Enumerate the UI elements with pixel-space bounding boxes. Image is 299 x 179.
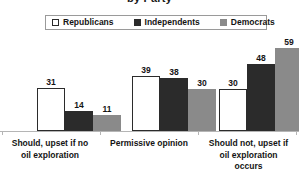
category-label-line: oil exploration: [198, 150, 299, 162]
bar-group-should-not-upset: 30 48 59: [219, 33, 299, 131]
bar-value-label: 59: [269, 38, 299, 47]
category-label-line: Should, upset if no: [0, 138, 100, 150]
bar-value-label: 11: [87, 105, 127, 114]
bar-republicans: [132, 76, 160, 131]
bar-democrats: [93, 115, 121, 131]
bar-slot-democrats: 30: [188, 33, 216, 131]
legend-label-independents: Independents: [145, 18, 200, 27]
category-label-should-upset: Should, upset if no oil exploration: [0, 138, 100, 161]
category-label-line: Permissive opinion: [100, 138, 198, 150]
category-label-should-not-upset: Should not, upset if oil exploration occ…: [198, 138, 299, 173]
chart-legend: Republicans Independents Democrats: [45, 15, 267, 30]
bar-democrats: [275, 48, 299, 131]
x-axis-category-labels: Should, upset if no oil exploration Perm…: [0, 138, 299, 179]
x-axis-tick: [2, 132, 3, 135]
bar-republicans: [219, 89, 247, 131]
bar-slot-republicans: 31: [37, 33, 65, 131]
x-axis-tick: [100, 132, 101, 135]
bar-democrats: [188, 89, 216, 131]
category-label-line: occurs: [198, 161, 299, 173]
category-label-line: Should not, upset if: [198, 138, 299, 150]
legend-swatch-democrats: [220, 19, 227, 26]
legend-entry-republicans: Republicans: [52, 18, 114, 27]
chart-title: by Party: [0, 0, 299, 4]
category-label-line: oil exploration: [0, 150, 100, 162]
bar-group-permissive-opinion: 39 38 30: [132, 33, 216, 131]
grouped-bar-chart: by Party Republicans Independents Democr…: [0, 0, 299, 179]
legend-entry-independents: Independents: [134, 18, 200, 27]
bar-slot-republicans: 39: [132, 33, 160, 131]
bar-slot-republicans: 30: [219, 33, 247, 131]
legend-swatch-independents: [134, 19, 141, 26]
legend-swatch-republicans: [52, 19, 59, 26]
bar-slot-democrats: 11: [93, 33, 121, 131]
legend-label-democrats: Democrats: [231, 18, 275, 27]
x-axis-tick: [296, 132, 297, 135]
legend-label-republicans: Republicans: [63, 18, 114, 27]
category-label-permissive-opinion: Permissive opinion: [100, 138, 198, 150]
legend-entry-democrats: Democrats: [220, 18, 275, 27]
bar-republicans: [37, 88, 65, 131]
x-axis-tick: [198, 132, 199, 135]
x-axis-line: [0, 131, 299, 132]
bar-group-should-upset: 31 14 11: [37, 33, 121, 131]
bar-independents: [65, 111, 93, 131]
bar-slot-independents: 14: [65, 33, 93, 131]
plot-area: 31 14 11 39 38: [0, 33, 299, 132]
bar-slot-independents: 48: [247, 33, 275, 131]
bar-independents: [247, 64, 275, 131]
bar-slot-democrats: 59: [275, 33, 299, 131]
